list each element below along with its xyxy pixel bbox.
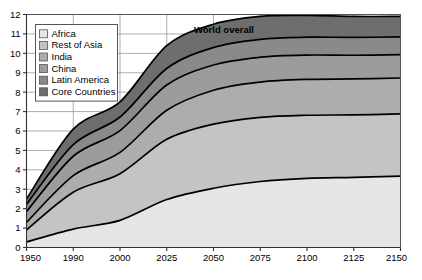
- stacked-area-chart: 0123456789101112 19501990200020252050207…: [0, 0, 422, 280]
- y-tick-label: 11: [11, 28, 21, 39]
- y-tick-label: 10: [10, 48, 21, 59]
- x-axis-tick-labels: 195019902000202520502075210021252150: [20, 252, 407, 263]
- chart-canvas: 0123456789101112 19501990200020252050207…: [0, 0, 422, 280]
- y-tick-label: 1: [15, 222, 20, 233]
- x-tick-label: 2025: [156, 252, 177, 263]
- legend-label: Core Countries: [52, 86, 116, 97]
- x-tick-label: 2050: [203, 252, 224, 263]
- x-tick-label: 2100: [296, 252, 317, 263]
- x-tick-label: 2125: [343, 252, 364, 263]
- y-tick-label: 7: [15, 106, 20, 117]
- x-tick-label: 2000: [109, 252, 130, 263]
- y-tick-label: 9: [15, 67, 20, 78]
- legend-swatch: [40, 76, 48, 84]
- x-tick-label: 2075: [250, 252, 271, 263]
- legend-swatch: [40, 65, 48, 73]
- y-tick-label: 5: [15, 145, 20, 156]
- legend-label: Rest of Asia: [52, 39, 103, 50]
- y-tick-label: 8: [15, 87, 20, 98]
- legend-label: India: [52, 51, 73, 62]
- y-tick-label: 3: [15, 184, 20, 195]
- legend-swatch: [40, 53, 48, 61]
- x-tick-label: 1950: [20, 252, 41, 263]
- x-tick-label: 2150: [386, 252, 407, 263]
- y-tick-label: 6: [15, 125, 20, 136]
- legend-label: Latin America: [52, 74, 110, 85]
- chart-legend: AfricaRest of AsiaIndiaChinaLatin Americ…: [36, 25, 118, 102]
- legend-swatch: [40, 88, 48, 96]
- y-axis-tick-labels: 0123456789101112: [10, 9, 21, 253]
- x-tick-label: 1990: [63, 252, 84, 263]
- legend-swatch: [40, 30, 48, 38]
- y-tick-label: 2: [15, 203, 20, 214]
- y-tick-label: 4: [15, 164, 20, 175]
- y-tick-label: 12: [10, 9, 21, 20]
- legend-label: Africa: [52, 28, 77, 39]
- legend-swatch: [40, 41, 48, 49]
- legend-label: China: [52, 63, 78, 74]
- world-overall-annotation: World overall: [194, 24, 254, 35]
